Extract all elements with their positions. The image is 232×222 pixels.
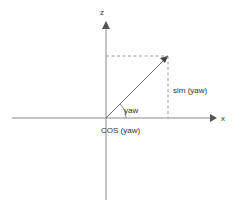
z-axis-label: z <box>100 8 104 17</box>
yaw-angle-label: yaw <box>124 106 138 115</box>
cos-component-label: COS (yaw) <box>101 126 140 135</box>
z-axis-arrowhead <box>102 21 110 29</box>
x-axis-label: x <box>221 114 225 123</box>
yaw-vector-arrowhead <box>160 56 168 63</box>
sin-component-label: sim (yaw) <box>173 86 208 95</box>
yaw-vector-diagram: z x yaw sim (yaw) COS (yaw) <box>0 0 232 222</box>
diagram-canvas: z x yaw sim (yaw) COS (yaw) <box>0 0 232 222</box>
x-axis-arrowhead <box>210 114 217 122</box>
